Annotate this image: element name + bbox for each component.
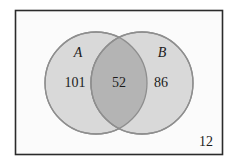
set-intersection-count: 52 [112,76,126,90]
venn-diagram-figure: A B 101 52 86 12 [0,0,234,165]
set-a-label: A [74,46,83,60]
outside-sets-count: 12 [199,135,213,149]
set-a-only-count: 101 [65,76,86,90]
set-b-label: B [158,46,167,60]
set-b-only-count: 86 [154,76,168,90]
